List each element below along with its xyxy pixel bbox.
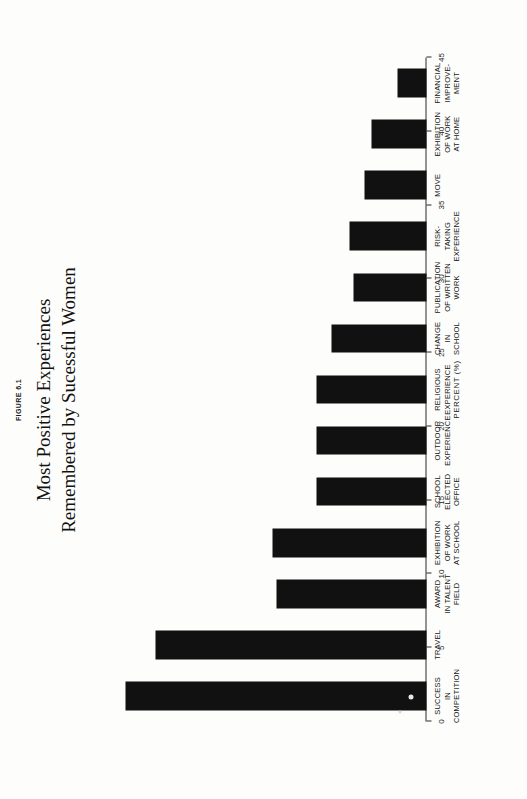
axis-tick-40: [426, 130, 431, 131]
bar[interactable]: [316, 375, 426, 404]
bar[interactable]: [155, 630, 426, 659]
axis-title-percent: PERCENT (%): [451, 57, 460, 721]
axis-tick-30: [426, 277, 431, 278]
bar[interactable]: [316, 426, 426, 455]
bar-slot[interactable]: [96, 426, 426, 455]
bar-slot[interactable]: [96, 681, 426, 710]
bar[interactable]: [349, 221, 426, 250]
bar-slot[interactable]: [96, 119, 426, 148]
figure-title-line-1: Most Positive Experiences: [30, 0, 55, 799]
bar[interactable]: [331, 324, 426, 353]
axis-tick-15: [426, 499, 431, 500]
bar-slot[interactable]: [96, 579, 426, 608]
scan-speck-large: [408, 694, 413, 699]
axis-tick-25: [426, 351, 431, 352]
bar-slot[interactable]: [96, 68, 426, 97]
axis-tick-45: [426, 56, 431, 57]
bar[interactable]: [316, 477, 426, 506]
bar-slot[interactable]: [96, 273, 426, 302]
bar-slot[interactable]: [96, 477, 426, 506]
bar-slot[interactable]: [96, 375, 426, 404]
figure-page: FIGURE 6.1 Most Positive Experiences Rem…: [0, 0, 527, 799]
scan-speck-small: [398, 710, 401, 713]
bar[interactable]: [371, 119, 426, 148]
bar[interactable]: [364, 170, 426, 199]
axis-tick-10: [426, 572, 431, 573]
bar-slot[interactable]: [96, 170, 426, 199]
axis-tick-5: [426, 646, 431, 647]
bar-slot[interactable]: [96, 528, 426, 557]
axis-tick-20: [426, 425, 431, 426]
bar[interactable]: [353, 273, 426, 302]
axis-tick-35: [426, 204, 431, 205]
bar[interactable]: [125, 681, 426, 710]
figure-title: Most Positive Experiences Remembered by …: [30, 0, 80, 799]
axis-tick-0: [426, 720, 431, 721]
bar[interactable]: [276, 579, 426, 608]
bar-slot[interactable]: [96, 324, 426, 353]
figure-title-line-2: Remembered by Sucessful Women: [55, 0, 80, 799]
bar-chart-plot-area: 051015202530354045 SUCCESS IN COMPETITIO…: [96, 57, 426, 721]
bar[interactable]: [272, 528, 426, 557]
bar-slot[interactable]: [96, 630, 426, 659]
bar-slot[interactable]: [96, 221, 426, 250]
bar[interactable]: [397, 68, 426, 97]
figure-number-label: FIGURE 6.1: [14, 0, 21, 799]
